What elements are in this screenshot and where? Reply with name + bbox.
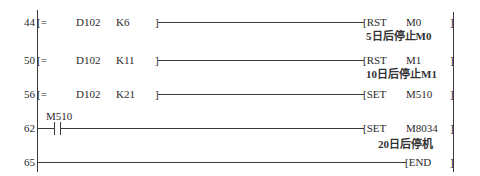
- compare-operand-1[interactable]: D102: [76, 89, 100, 100]
- rung-wire: [158, 60, 364, 61]
- output-operand[interactable]: M1: [406, 55, 421, 66]
- step-number: 62: [24, 123, 35, 134]
- rung-wire-left: [38, 128, 54, 129]
- step-number: 65: [24, 157, 35, 168]
- output-instruction[interactable]: [RST: [363, 17, 387, 28]
- output-instruction[interactable]: [SET: [363, 123, 386, 134]
- output-operand[interactable]: M8034: [406, 123, 438, 134]
- contact-device-label[interactable]: M510: [46, 111, 72, 122]
- compare-open: [=: [37, 55, 47, 66]
- output-instruction[interactable]: [SET: [363, 89, 386, 100]
- output-close: ]: [450, 123, 454, 134]
- output-close: ]: [450, 55, 454, 66]
- output-close: ]: [450, 157, 454, 168]
- compare-operand-2[interactable]: K6: [116, 17, 129, 28]
- end-instruction[interactable]: [END: [405, 157, 431, 168]
- step-number: 50: [24, 55, 35, 66]
- compare-operand-2[interactable]: K21: [116, 89, 135, 100]
- rung-comment: 5日后停止M0: [366, 31, 431, 42]
- output-instruction[interactable]: [RST: [363, 55, 387, 66]
- compare-open: [=: [37, 17, 47, 28]
- compare-operand-2[interactable]: K11: [116, 55, 135, 66]
- rung-wire: [158, 94, 364, 95]
- output-operand[interactable]: M0: [406, 17, 421, 28]
- compare-open: [=: [37, 89, 47, 100]
- rung-wire: [158, 22, 364, 23]
- step-number: 44: [24, 17, 35, 28]
- step-number: 56: [24, 89, 35, 100]
- output-close: ]: [450, 89, 454, 100]
- rung-wire: [38, 162, 406, 163]
- compare-operand-1[interactable]: D102: [76, 17, 100, 28]
- compare-operand-1[interactable]: D102: [76, 55, 100, 66]
- rung-comment: 20日后停机: [378, 139, 433, 150]
- output-close: ]: [450, 17, 454, 28]
- output-operand[interactable]: M510: [406, 89, 432, 100]
- rung-comment: 10日后停止M1: [366, 69, 437, 80]
- rung-wire: [61, 128, 364, 129]
